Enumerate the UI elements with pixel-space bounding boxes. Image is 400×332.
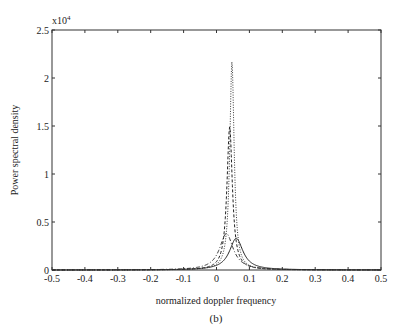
x-tick-label: 0.3 (309, 273, 322, 284)
series-line-solid (52, 238, 381, 270)
y-tick-label: 2.5 (37, 25, 50, 36)
figure-caption: (b) (210, 312, 223, 325)
plot-frame (52, 30, 381, 270)
y-tick-label: 2 (44, 73, 49, 84)
x-tick-label: -0.2 (143, 273, 159, 284)
x-tick-label: 0.1 (243, 273, 256, 284)
psd-chart: -0.5-0.4-0.3-0.2-0.100.10.20.30.40.5 00.… (0, 0, 400, 332)
y-axis-multiplier: x104 (52, 14, 71, 26)
x-tick-label: 0.4 (342, 273, 355, 284)
y-tick-label: 0 (44, 265, 49, 276)
x-tick-label: -0.1 (176, 273, 192, 284)
series-line-dashed (52, 127, 381, 270)
x-tick-label: -0.3 (110, 273, 126, 284)
x-axis-ticks: -0.5-0.4-0.3-0.2-0.100.10.20.30.40.5 (44, 30, 387, 284)
series-line-dotted (52, 62, 381, 270)
x-axis-label: normalized doppler frequency (156, 295, 277, 306)
y-tick-label: 1.5 (37, 121, 50, 132)
y-tick-label: 0.5 (37, 217, 50, 228)
x-tick-label: 0 (214, 273, 219, 284)
x-tick-label: 0.5 (375, 273, 388, 284)
x-tick-label: 0.2 (276, 273, 289, 284)
y-axis-label: Power spectral density (9, 105, 20, 196)
y-axis-ticks: 00.511.522.5 (37, 25, 382, 276)
x-tick-label: -0.4 (77, 273, 93, 284)
y-tick-label: 1 (44, 169, 49, 180)
series-layer (52, 62, 381, 270)
